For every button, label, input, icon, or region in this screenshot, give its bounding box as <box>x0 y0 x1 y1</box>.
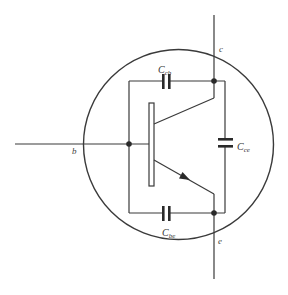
transistor-diagram: Ccb Cce Cbe b c e <box>0 0 288 295</box>
node-base <box>126 141 132 147</box>
emitter-arrow-icon <box>179 172 190 180</box>
label-terminal-emitter: e <box>218 237 222 246</box>
label-c-ce-sub: ce <box>244 146 250 154</box>
node-collector <box>211 78 217 84</box>
capacitor-ce-plate-top <box>218 138 233 141</box>
label-c-be: Cbe <box>162 223 175 239</box>
label-c-be-main: C <box>162 227 169 238</box>
label-c-ce: Cce <box>237 137 250 153</box>
label-c-cb-sub: cb <box>165 69 172 77</box>
label-c-cb: Ccb <box>158 60 171 76</box>
label-c-cb-main: C <box>158 64 165 75</box>
label-terminal-base: b <box>72 147 77 156</box>
label-terminal-collector: c <box>219 45 223 54</box>
label-c-be-sub: be <box>169 232 176 240</box>
label-c-ce-main: C <box>237 141 244 152</box>
transistor-collector-lead <box>154 98 214 124</box>
capacitor-be-plate-left <box>162 206 165 221</box>
capacitor-be-plate-right <box>168 206 171 221</box>
node-emitter <box>211 210 217 216</box>
transistor-base-bar <box>149 103 154 186</box>
capacitor-ce-plate-bottom <box>218 145 233 148</box>
